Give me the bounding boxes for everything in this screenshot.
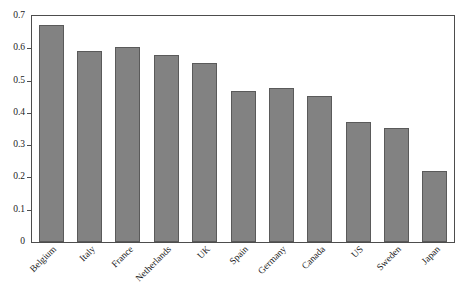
bar-rect	[192, 63, 217, 242]
bar-item	[77, 16, 102, 242]
y-axis-tick-mark	[27, 210, 31, 211]
bar-item	[269, 16, 294, 242]
bar-item	[346, 16, 371, 242]
y-axis-tick-label: 0.2	[13, 170, 25, 183]
y-axis-tick-mark	[27, 81, 31, 82]
y-axis-tick-label: 0.6	[13, 41, 25, 54]
y-axis-tick-label: 0.7	[13, 9, 25, 22]
y-axis: 00.10.20.30.40.50.60.7	[0, 0, 31, 304]
bar-item	[422, 16, 447, 242]
bar-item	[384, 16, 409, 242]
bar-chart: 00.10.20.30.40.50.60.7 BelgiumItalyFranc…	[0, 0, 464, 304]
bar-item	[231, 16, 256, 242]
bar-rect	[384, 128, 409, 242]
y-axis-tick-mark	[27, 48, 31, 49]
y-axis-tick-mark	[27, 145, 31, 146]
bar-item	[307, 16, 332, 242]
bar-rect	[77, 51, 102, 242]
y-axis-tick-label: 0.5	[13, 74, 25, 87]
bar-rect	[422, 171, 447, 242]
bar-rect	[154, 55, 179, 242]
x-axis-labels: BelgiumItalyFranceNetherlandsUKSpainGerm…	[32, 244, 454, 304]
bar-rect	[39, 25, 64, 242]
bar-rect	[269, 88, 294, 242]
bar-rect	[346, 122, 371, 242]
y-axis-tick-mark	[27, 113, 31, 114]
y-axis-tick-label: 0.4	[13, 106, 25, 119]
y-axis-tick-label: 0.3	[13, 138, 25, 151]
y-axis-tick-label: 0.1	[13, 203, 25, 216]
bar-rect	[231, 91, 256, 242]
bar-item	[115, 16, 140, 242]
bars-container	[32, 16, 454, 242]
bar-rect	[307, 96, 332, 242]
bar-item	[39, 16, 64, 242]
y-axis-tick-mark	[27, 177, 31, 178]
bar-item	[192, 16, 217, 242]
y-axis-tick-label: 0	[20, 235, 25, 248]
bar-rect	[115, 47, 140, 242]
bar-item	[154, 16, 179, 242]
